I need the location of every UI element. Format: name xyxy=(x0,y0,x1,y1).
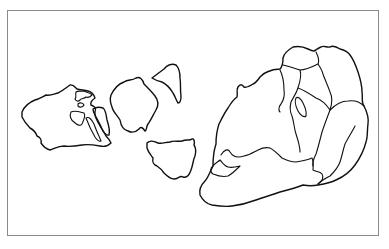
western-cape xyxy=(211,160,240,176)
island-small-1 xyxy=(78,103,84,107)
inner-block-north xyxy=(283,52,319,70)
map-caption xyxy=(250,239,385,249)
central-island-lower xyxy=(147,139,196,179)
archipelago-outline xyxy=(75,91,92,101)
inner-block-east xyxy=(330,101,364,110)
inner-block-divider-1 xyxy=(279,70,284,112)
inner-block-south-divider xyxy=(313,110,330,166)
eastern-hook xyxy=(318,126,355,184)
eastern-supercontinent xyxy=(200,46,369,206)
island-small-2 xyxy=(70,111,85,125)
inner-block-divider-2 xyxy=(290,70,300,152)
central-island-upper xyxy=(110,77,157,132)
southern-coast-inner xyxy=(221,148,323,184)
lake-outline xyxy=(295,97,306,116)
continent-map xyxy=(0,0,389,249)
